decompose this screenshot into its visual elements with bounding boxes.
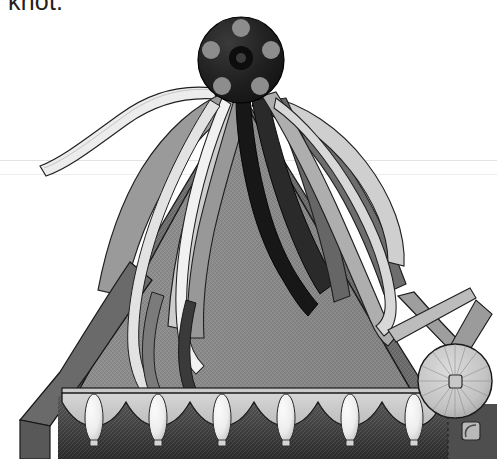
illustration-canvas: knot. [0, 0, 497, 459]
button-dot [251, 77, 269, 95]
tent-left-wing-edge [20, 420, 50, 459]
knot-button-finial [198, 17, 284, 103]
button-hub-core [236, 53, 246, 63]
button-dot [213, 77, 231, 95]
wheel-center-knob [449, 375, 462, 388]
button-dot [262, 41, 280, 59]
tent-illustration [0, 0, 497, 459]
buckle-square [462, 422, 480, 440]
button-dot [202, 41, 220, 59]
button-dot [232, 19, 250, 37]
